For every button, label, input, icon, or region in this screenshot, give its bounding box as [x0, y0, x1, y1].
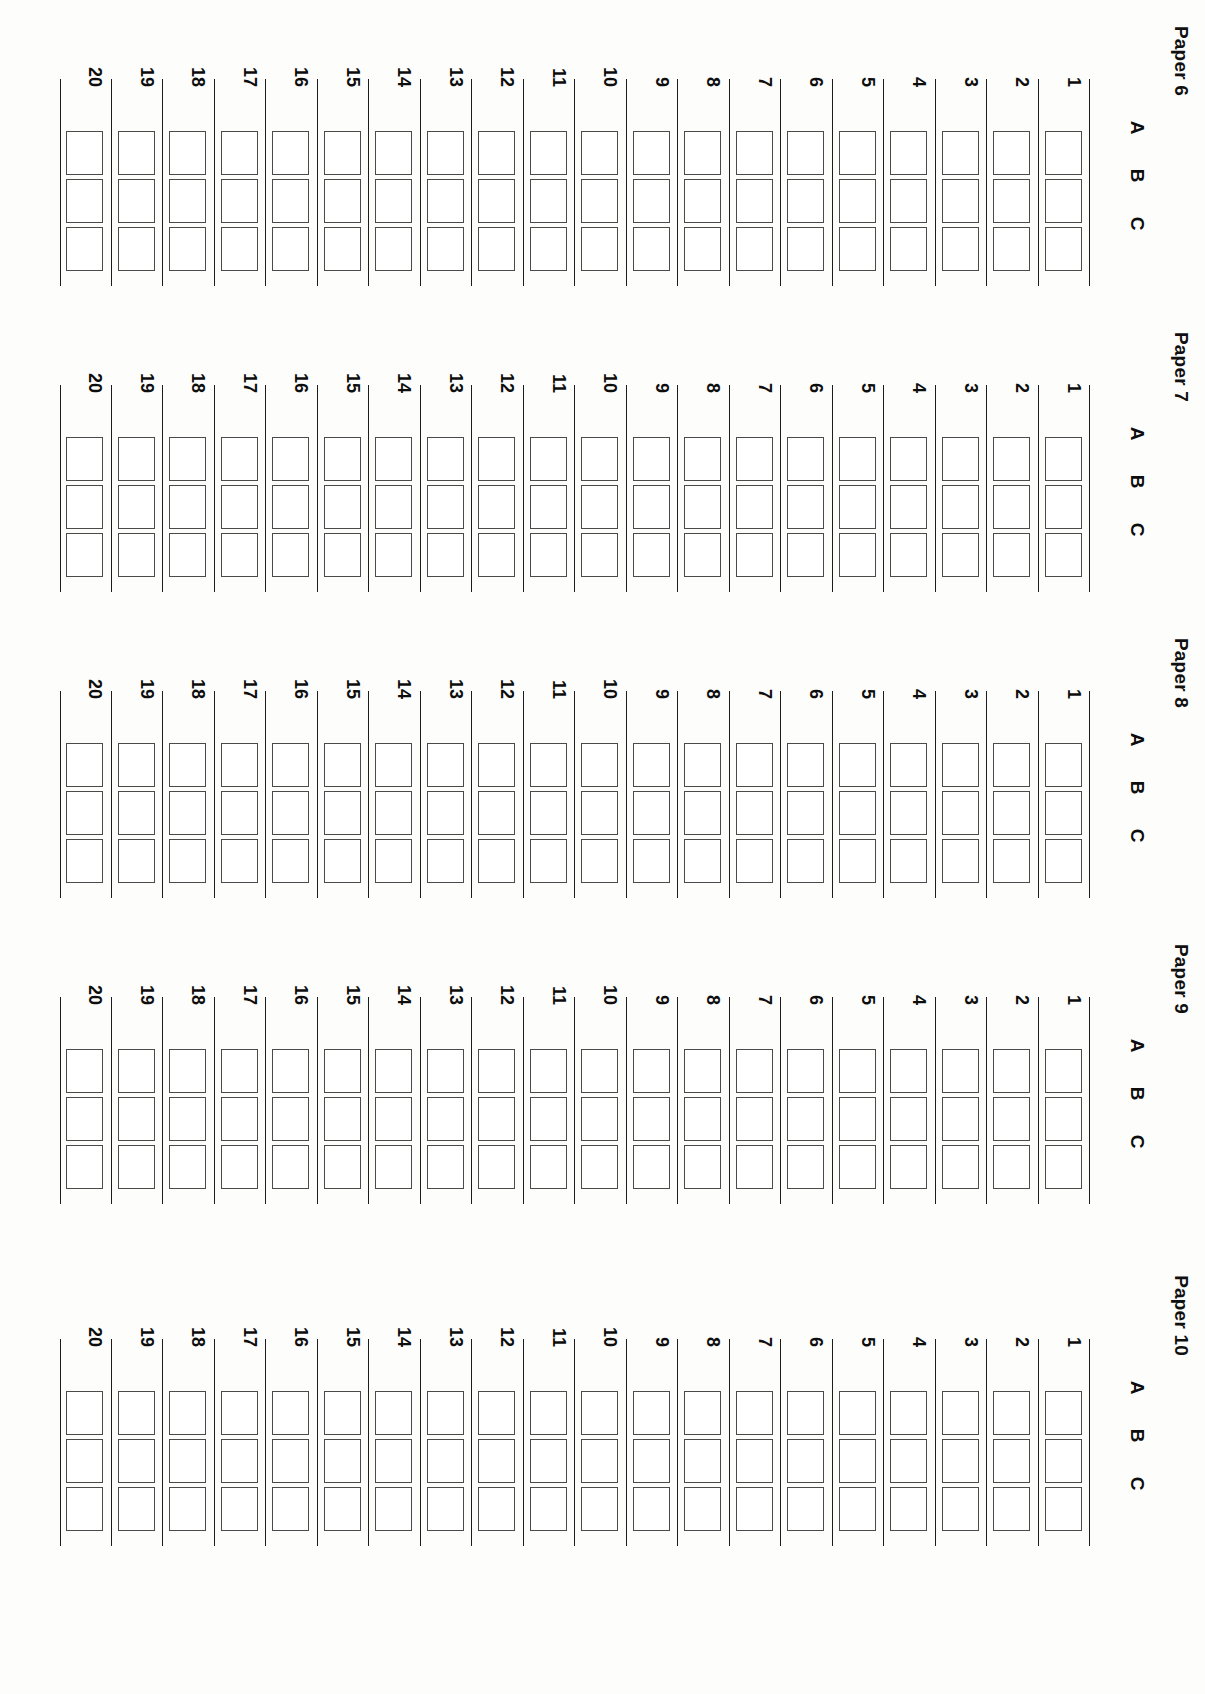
checkbox-a[interactable] [736, 1391, 773, 1435]
checkbox-c[interactable] [118, 1487, 155, 1531]
checkbox-b[interactable] [942, 791, 979, 835]
checkbox-b[interactable] [169, 791, 206, 835]
checkbox-a[interactable] [169, 131, 206, 175]
checkbox-c[interactable] [633, 839, 670, 883]
checkbox-b[interactable] [684, 485, 721, 529]
checkbox-b[interactable] [272, 485, 309, 529]
checkbox-c[interactable] [375, 839, 412, 883]
checkbox-c[interactable] [942, 533, 979, 577]
checkbox-a[interactable] [633, 1049, 670, 1093]
checkbox-b[interactable] [581, 791, 618, 835]
checkbox-c[interactable] [221, 1145, 258, 1189]
checkbox-a[interactable] [684, 743, 721, 787]
checkbox-b[interactable] [787, 1097, 824, 1141]
checkbox-b[interactable] [478, 1439, 515, 1483]
checkbox-a[interactable] [1045, 743, 1082, 787]
checkbox-c[interactable] [993, 227, 1030, 271]
checkbox-a[interactable] [633, 131, 670, 175]
checkbox-a[interactable] [118, 743, 155, 787]
checkbox-c[interactable] [427, 227, 464, 271]
checkbox-a[interactable] [993, 131, 1030, 175]
checkbox-a[interactable] [633, 743, 670, 787]
checkbox-b[interactable] [375, 1097, 412, 1141]
checkbox-c[interactable] [324, 533, 361, 577]
checkbox-a[interactable] [427, 1391, 464, 1435]
checkbox-a[interactable] [169, 743, 206, 787]
checkbox-b[interactable] [1045, 791, 1082, 835]
checkbox-a[interactable] [169, 1391, 206, 1435]
checkbox-c[interactable] [890, 1145, 927, 1189]
checkbox-b[interactable] [169, 1439, 206, 1483]
checkbox-b[interactable] [478, 791, 515, 835]
checkbox-b[interactable] [66, 1097, 103, 1141]
checkbox-b[interactable] [324, 1439, 361, 1483]
checkbox-c[interactable] [787, 227, 824, 271]
checkbox-c[interactable] [736, 1145, 773, 1189]
checkbox-c[interactable] [221, 227, 258, 271]
checkbox-b[interactable] [839, 485, 876, 529]
checkbox-b[interactable] [787, 485, 824, 529]
checkbox-c[interactable] [272, 533, 309, 577]
checkbox-b[interactable] [581, 179, 618, 223]
checkbox-c[interactable] [890, 839, 927, 883]
checkbox-c[interactable] [942, 1145, 979, 1189]
checkbox-c[interactable] [581, 533, 618, 577]
checkbox-c[interactable] [324, 227, 361, 271]
checkbox-b[interactable] [530, 1439, 567, 1483]
checkbox-a[interactable] [272, 1049, 309, 1093]
checkbox-a[interactable] [839, 131, 876, 175]
checkbox-c[interactable] [375, 533, 412, 577]
checkbox-b[interactable] [993, 791, 1030, 835]
checkbox-a[interactable] [839, 437, 876, 481]
checkbox-b[interactable] [1045, 1439, 1082, 1483]
checkbox-a[interactable] [993, 437, 1030, 481]
checkbox-c[interactable] [530, 839, 567, 883]
checkbox-c[interactable] [478, 533, 515, 577]
checkbox-c[interactable] [118, 227, 155, 271]
checkbox-b[interactable] [581, 1439, 618, 1483]
checkbox-b[interactable] [993, 1097, 1030, 1141]
checkbox-b[interactable] [736, 1439, 773, 1483]
checkbox-c[interactable] [890, 227, 927, 271]
checkbox-c[interactable] [787, 1145, 824, 1189]
checkbox-a[interactable] [66, 131, 103, 175]
checkbox-b[interactable] [890, 1439, 927, 1483]
checkbox-b[interactable] [942, 179, 979, 223]
checkbox-a[interactable] [478, 1049, 515, 1093]
checkbox-b[interactable] [66, 791, 103, 835]
checkbox-a[interactable] [272, 743, 309, 787]
checkbox-c[interactable] [684, 227, 721, 271]
checkbox-b[interactable] [427, 1097, 464, 1141]
checkbox-c[interactable] [427, 1487, 464, 1531]
checkbox-b[interactable] [324, 1097, 361, 1141]
checkbox-a[interactable] [530, 1391, 567, 1435]
checkbox-a[interactable] [787, 131, 824, 175]
checkbox-c[interactable] [1045, 1487, 1082, 1531]
checkbox-a[interactable] [684, 131, 721, 175]
checkbox-b[interactable] [633, 1097, 670, 1141]
checkbox-b[interactable] [375, 1439, 412, 1483]
checkbox-c[interactable] [66, 227, 103, 271]
checkbox-c[interactable] [581, 839, 618, 883]
checkbox-a[interactable] [993, 1391, 1030, 1435]
checkbox-a[interactable] [478, 743, 515, 787]
checkbox-a[interactable] [427, 131, 464, 175]
checkbox-b[interactable] [118, 1439, 155, 1483]
checkbox-a[interactable] [118, 1391, 155, 1435]
checkbox-a[interactable] [736, 1049, 773, 1093]
checkbox-a[interactable] [324, 131, 361, 175]
checkbox-c[interactable] [375, 1145, 412, 1189]
checkbox-c[interactable] [633, 1487, 670, 1531]
checkbox-a[interactable] [427, 1049, 464, 1093]
checkbox-a[interactable] [118, 131, 155, 175]
checkbox-a[interactable] [942, 743, 979, 787]
checkbox-b[interactable] [272, 1097, 309, 1141]
checkbox-a[interactable] [427, 437, 464, 481]
checkbox-b[interactable] [890, 179, 927, 223]
checkbox-a[interactable] [530, 1049, 567, 1093]
checkbox-c[interactable] [839, 1487, 876, 1531]
checkbox-b[interactable] [324, 485, 361, 529]
checkbox-b[interactable] [169, 179, 206, 223]
checkbox-a[interactable] [478, 437, 515, 481]
checkbox-c[interactable] [787, 533, 824, 577]
